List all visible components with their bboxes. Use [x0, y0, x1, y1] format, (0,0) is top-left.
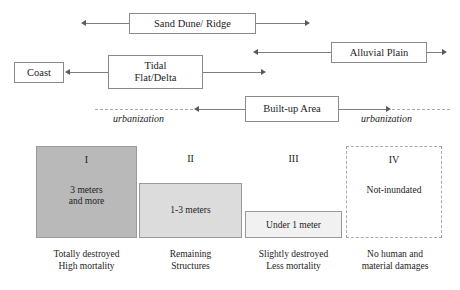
inundation-depth-3-line1: Under 1 meter	[266, 220, 321, 230]
arrowhead-coast	[65, 69, 70, 75]
connector-builtup-right-solid	[339, 109, 387, 110]
inundation-caption-2-line1: Remaining	[170, 249, 212, 259]
connector-urbanization-left-dashed	[95, 109, 193, 110]
inundation-bar-2[interactable]: 1-3 meters	[139, 183, 242, 238]
node-coast-label: Coast	[27, 67, 51, 79]
diagram-canvas: Sand Dune/ Ridge Alluvial Plain Coast Ti…	[0, 0, 460, 290]
inundation-caption-1: Totally destroyed High mortality	[26, 249, 147, 272]
node-built-up-area[interactable]: Built-up Area	[245, 96, 339, 122]
node-alluvial-plain[interactable]: Alluvial Plain	[331, 42, 427, 63]
connector-tidal-right	[203, 72, 262, 73]
connector-alluvial-left	[258, 52, 331, 53]
inundation-caption-3-line1: Slightly destroyed	[259, 249, 328, 259]
inundation-depth-1-line2: and more	[69, 196, 105, 206]
connector-builtup-left-solid	[199, 109, 245, 110]
node-tidal-flat-delta[interactable]: Tidal Flat/Delta	[108, 55, 203, 89]
inundation-caption-1-line2: High mortality	[58, 261, 114, 271]
inundation-caption-2: Remaining Structures	[134, 249, 247, 272]
inundation-bar-4[interactable]: IV Not-inundated	[346, 146, 442, 238]
node-sand-dune-ridge[interactable]: Sand Dune/ Ridge	[129, 13, 256, 34]
connector-alluvial-right	[427, 52, 443, 53]
inundation-caption-4-line1: No human and	[367, 249, 423, 259]
arrowhead-urbanization-left	[194, 106, 199, 112]
node-built-up-area-label: Built-up Area	[263, 103, 320, 115]
inundation-roman-2: II	[139, 153, 242, 164]
inundation-caption-1-line1: Totally destroyed	[53, 249, 119, 259]
inundation-depth-2: 1-3 meters	[140, 205, 241, 216]
inundation-depth-2-line1: 1-3 meters	[170, 205, 210, 215]
inundation-depth-3: Under 1 meter	[246, 220, 341, 231]
node-alluvial-plain-label: Alluvial Plain	[350, 47, 409, 59]
connector-sand-dune-left	[86, 23, 130, 24]
inundation-bar-3[interactable]: Under 1 meter	[245, 211, 342, 238]
inundation-depth-4-line1: Not-inundated	[367, 185, 422, 195]
node-sand-dune-ridge-label: Sand Dune/ Ridge	[154, 18, 231, 30]
inundation-caption-2-line2: Structures	[171, 261, 210, 271]
inundation-caption-3-line2: Less mortality	[266, 261, 321, 271]
arrowhead-tidal-right	[261, 69, 266, 75]
arrowhead-alluvial-right	[442, 49, 447, 55]
node-tidal-flat-delta-label-line2: Flat/Delta	[135, 72, 177, 84]
label-urbanization-left: urbanization	[113, 113, 164, 124]
inundation-bar-1[interactable]: I 3 meters and more	[36, 146, 137, 238]
inundation-depth-1: 3 meters and more	[37, 185, 136, 207]
connector-coast-tidal	[70, 72, 109, 73]
arrowhead-sand-dune-right	[305, 20, 310, 26]
connector-sand-dune-right	[256, 23, 306, 24]
inundation-roman-4: IV	[347, 154, 441, 165]
inundation-caption-3: Slightly destroyed Less mortality	[237, 249, 350, 272]
connector-urbanization-right-dashed	[392, 109, 450, 110]
label-urbanization-right: urbanization	[361, 113, 412, 124]
inundation-roman-3: III	[245, 153, 342, 164]
inundation-caption-4: No human and material damages	[340, 249, 450, 272]
arrowhead-sand-dune-left	[81, 20, 86, 26]
node-tidal-flat-delta-label-line1: Tidal	[145, 60, 167, 72]
inundation-depth-1-line1: 3 meters	[70, 185, 102, 195]
inundation-depth-4: Not-inundated	[347, 185, 441, 196]
inundation-roman-1: I	[37, 154, 136, 165]
arrowhead-urbanization-right	[386, 106, 391, 112]
inundation-caption-4-line2: material damages	[362, 261, 429, 271]
arrowhead-alluvial-left	[253, 49, 258, 55]
node-coast[interactable]: Coast	[14, 62, 64, 83]
